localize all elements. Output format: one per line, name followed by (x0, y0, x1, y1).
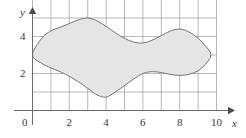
shaded-region-group (33, 18, 211, 97)
y-tick-label: 4 (20, 31, 26, 42)
coordinate-plot-figure: y x 0 246810 24 (0, 0, 246, 138)
x-axis-label: x (232, 118, 237, 129)
x-axis-arrowhead (228, 107, 235, 114)
y-tick-label: 2 (20, 68, 26, 79)
plot-canvas (0, 0, 246, 138)
shaded-region-path (33, 18, 211, 97)
y-axis-label: y (20, 7, 25, 18)
x-tick-label: 6 (140, 117, 146, 128)
x-tick-label: 4 (103, 117, 109, 128)
x-tick-label: 2 (67, 117, 73, 128)
origin-tick-label: 0 (22, 117, 28, 128)
x-tick-label: 8 (177, 117, 183, 128)
x-tick-label: 10 (211, 117, 222, 128)
y-axis-arrowhead (29, 7, 36, 14)
